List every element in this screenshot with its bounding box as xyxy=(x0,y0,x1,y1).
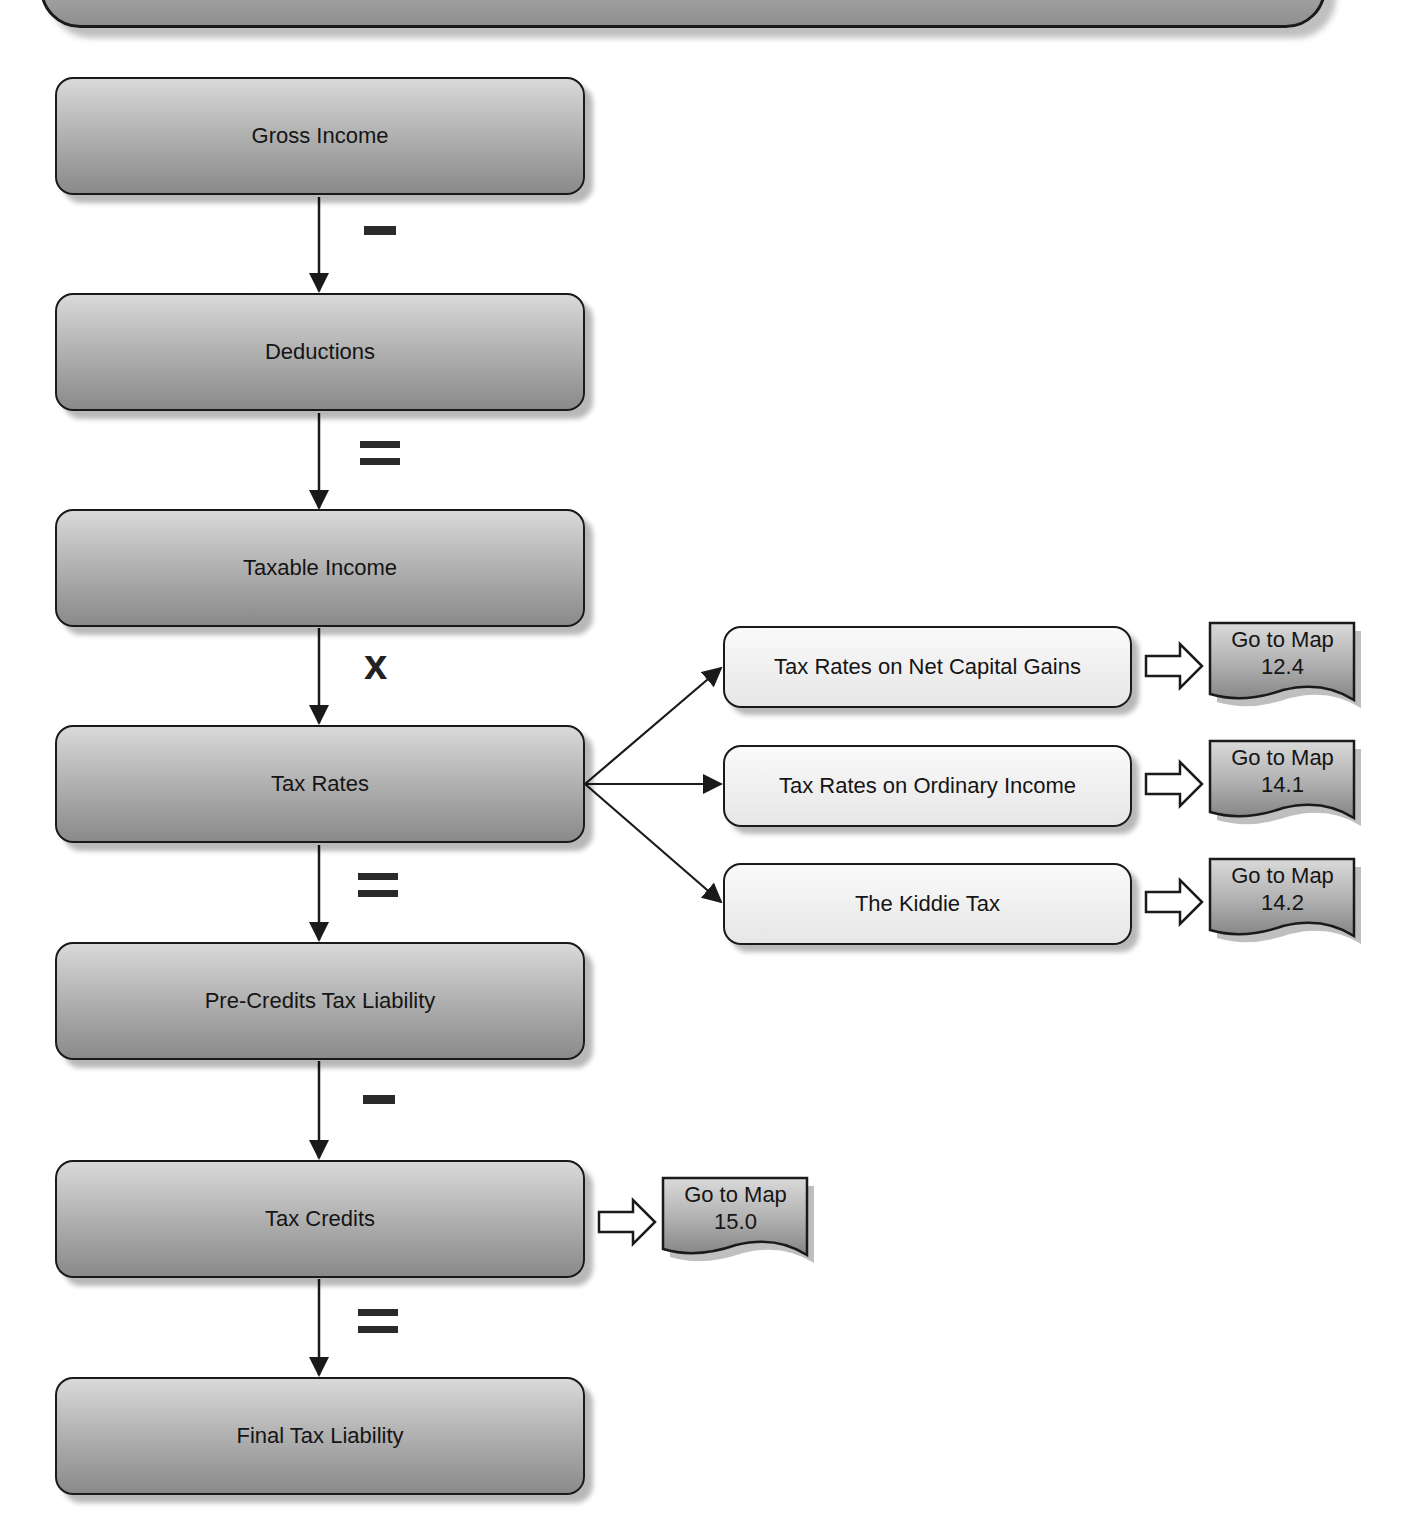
box-kiddie-tax: The Kiddie Tax xyxy=(723,863,1132,945)
map-ref-14-2[interactable]: Go to Map 14.2 xyxy=(1210,862,1355,932)
box-label: Tax Rates on Net Capital Gains xyxy=(774,654,1081,680)
box-deductions: Deductions xyxy=(55,293,585,411)
box-taxable-income: Taxable Income xyxy=(55,509,585,627)
operator-equals-1a xyxy=(360,441,400,448)
branch-arrow-capital-gains xyxy=(585,668,721,784)
branch-arrow-kiddie-tax xyxy=(585,784,721,902)
box-pre-credits-tax-liability: Pre-Credits Tax Liability xyxy=(55,942,585,1060)
box-label: Deductions xyxy=(265,339,375,365)
map-ref-14-1[interactable]: Go to Map 14.1 xyxy=(1210,744,1355,814)
operator-equals-3b xyxy=(358,1326,398,1333)
map-ref-line1: Go to Map xyxy=(1210,744,1355,771)
box-tax-rates: Tax Rates xyxy=(55,725,585,843)
operator-equals-2a xyxy=(358,873,398,880)
box-label: Tax Rates on Ordinary Income xyxy=(779,773,1076,799)
block-arrow-icon-3 xyxy=(1146,880,1202,924)
operator-multiply: x xyxy=(364,642,387,688)
operator-minus-1 xyxy=(364,226,396,235)
map-ref-line1: Go to Map xyxy=(663,1181,808,1208)
operator-equals-2b xyxy=(358,890,398,897)
box-label: Taxable Income xyxy=(243,555,397,581)
operator-equals-1b xyxy=(360,458,400,465)
map-ref-line1: Go to Map xyxy=(1210,626,1355,653)
map-ref-line2: 14.2 xyxy=(1210,889,1355,916)
box-label: The Kiddie Tax xyxy=(855,891,1000,917)
box-tax-rates-ordinary-income: Tax Rates on Ordinary Income xyxy=(723,745,1132,827)
box-label: Pre-Credits Tax Liability xyxy=(205,988,436,1014)
box-label: Tax Credits xyxy=(265,1206,375,1232)
block-arrow-icon-2 xyxy=(1146,762,1202,806)
box-label: Gross Income xyxy=(252,123,389,149)
box-tax-credits: Tax Credits xyxy=(55,1160,585,1278)
box-label: Final Tax Liability xyxy=(236,1423,403,1449)
map-ref-line2: 14.1 xyxy=(1210,771,1355,798)
operator-equals-3a xyxy=(358,1309,398,1316)
map-ref-12-4[interactable]: Go to Map 12.4 xyxy=(1210,626,1355,696)
block-arrow-icon-1 xyxy=(1146,644,1202,688)
operator-minus-2 xyxy=(363,1095,395,1104)
box-gross-income: Gross Income xyxy=(55,77,585,195)
map-ref-line2: 15.0 xyxy=(663,1208,808,1235)
box-tax-rates-net-capital-gains: Tax Rates on Net Capital Gains xyxy=(723,626,1132,708)
map-ref-line1: Go to Map xyxy=(1210,862,1355,889)
block-arrow-icon-4 xyxy=(599,1200,655,1244)
map-ref-15-0[interactable]: Go to Map 15.0 xyxy=(663,1181,808,1251)
box-label: Tax Rates xyxy=(271,771,369,797)
box-final-tax-liability: Final Tax Liability xyxy=(55,1377,585,1495)
map-ref-line2: 12.4 xyxy=(1210,653,1355,680)
